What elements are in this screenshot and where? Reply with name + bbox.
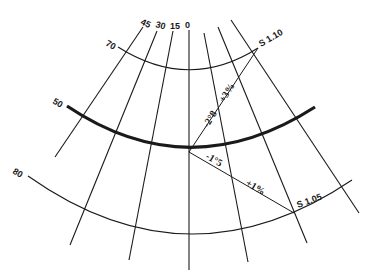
scale-line-lower [189, 152, 294, 213]
parallel-50 [67, 106, 315, 147]
parallel-label-70: 70 [104, 38, 118, 52]
percent-label-lower: +1% [244, 177, 267, 197]
scale-lines [189, 48, 294, 213]
meridian-30 [70, 31, 157, 245]
diagram-canvas: 45 30 15 0 70 50 80 S 1.10 S 1.05 -2°8 +… [0, 0, 370, 280]
parallel-label-50: 50 [51, 96, 65, 110]
meridian-label-0: 0 [185, 20, 190, 30]
meridian-label-30: 30 [154, 19, 166, 31]
scale-label-upper: S 1.10 [257, 27, 285, 49]
meridian-label-45: 45 [139, 17, 152, 30]
angle-label-lower: -1°5 [204, 150, 225, 168]
scale-label-lower: S 1.05 [295, 192, 323, 210]
parallel-70 [118, 47, 258, 70]
parallel-label-80: 80 [11, 166, 25, 180]
meridian-label-15: 15 [170, 21, 180, 31]
projection-diagram: 45 30 15 0 70 50 80 S 1.10 S 1.05 -2°8 +… [0, 0, 370, 280]
